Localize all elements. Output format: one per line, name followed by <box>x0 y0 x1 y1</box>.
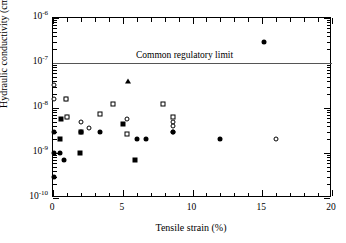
data-point-filled-circle <box>98 129 103 134</box>
data-point-filled-circle <box>51 151 56 156</box>
y-tick-left <box>53 67 57 68</box>
y-tick-right <box>327 36 331 37</box>
x-tick-bottom <box>304 193 305 197</box>
y-tick-left <box>53 115 57 116</box>
data-point-open-square <box>110 101 115 106</box>
x-tick-bottom <box>165 193 166 197</box>
data-point-filled-triangle <box>125 78 131 83</box>
x-tick-bottom <box>193 190 194 196</box>
x-tick-label: 20 <box>326 203 336 213</box>
x-tick-top <box>304 18 305 22</box>
data-point-open-circle <box>51 96 56 101</box>
y-tick-left <box>53 20 57 21</box>
x-tick-bottom <box>276 193 277 197</box>
y-axis-label: Hydraulic conductivity (cm/sec) <box>0 0 9 108</box>
y-tick-right <box>324 198 330 199</box>
data-point-open-square <box>170 115 175 120</box>
x-tick-top <box>206 18 207 22</box>
y-tick-left <box>53 18 59 19</box>
x-tick-top <box>137 18 138 22</box>
y-tick-right <box>327 112 331 113</box>
x-tick-top <box>81 18 82 22</box>
y-tick-right <box>327 160 331 161</box>
data-point-open-square <box>98 111 103 116</box>
y-tick-left <box>53 126 57 127</box>
data-point-open-circle <box>86 125 91 130</box>
y-tick-right <box>327 139 331 140</box>
x-tick-bottom <box>67 193 68 197</box>
data-point-open-square <box>124 132 129 137</box>
x-tick-bottom <box>123 190 124 196</box>
x-tick-label: 0 <box>50 203 55 213</box>
x-tick-bottom <box>81 193 82 197</box>
data-point-filled-circle <box>57 151 62 156</box>
x-tick-bottom <box>262 190 263 196</box>
y-tick-left <box>53 171 57 172</box>
x-tick-bottom <box>53 190 54 196</box>
data-point-filled-circle <box>51 174 56 179</box>
data-point-filled-circle <box>144 137 149 142</box>
y-tick-left <box>53 157 57 158</box>
y-tick-left <box>53 25 57 26</box>
y-tick-left <box>53 70 57 71</box>
x-tick-top <box>290 18 291 22</box>
y-tick-right <box>327 155 331 156</box>
y-tick-right <box>327 49 331 50</box>
x-tick-top <box>193 18 194 24</box>
data-point-open-square <box>64 115 69 120</box>
data-point-filled-square <box>120 121 125 126</box>
x-tick-top <box>332 18 333 24</box>
x-tick-top <box>179 18 180 22</box>
data-point-filled-circle <box>62 157 67 162</box>
y-tick-label: 10-8 <box>33 102 48 112</box>
x-tick-label: 15 <box>257 203 267 213</box>
x-tick-bottom <box>318 193 319 197</box>
y-tick-right <box>327 122 331 123</box>
x-tick-top <box>276 18 277 22</box>
y-tick-right <box>327 25 331 26</box>
y-tick-right <box>327 177 331 178</box>
x-tick-top <box>248 18 249 22</box>
y-tick-left <box>53 22 57 23</box>
x-tick-bottom <box>95 193 96 197</box>
data-point-open-circle <box>274 137 279 142</box>
y-tick-label: 10-10 <box>29 192 48 202</box>
y-tick-label: 10-7 <box>33 57 48 67</box>
data-point-open-circle <box>51 82 56 87</box>
y-tick-right <box>327 77 331 78</box>
data-point-filled-circle <box>170 129 175 134</box>
x-tick-top <box>165 18 166 22</box>
x-tick-top <box>67 18 68 22</box>
y-tick-right <box>327 118 331 119</box>
y-tick-label: 10-6 <box>33 12 48 22</box>
y-tick-right <box>324 108 330 109</box>
data-point-open-circle <box>78 119 83 124</box>
y-tick-right <box>327 110 331 111</box>
x-tick-bottom <box>109 193 110 197</box>
y-tick-left <box>53 163 57 164</box>
data-point-filled-circle <box>261 39 266 44</box>
x-tick-top <box>318 18 319 22</box>
data-point-open-square <box>161 101 166 106</box>
y-tick-left <box>53 65 57 66</box>
x-tick-label: 10 <box>187 203 197 213</box>
data-point-filled-square <box>57 137 62 142</box>
y-tick-left <box>53 28 57 29</box>
data-point-open-circle <box>170 123 175 128</box>
y-tick-right <box>327 70 331 71</box>
y-tick-right <box>327 22 331 23</box>
y-tick-left <box>53 94 57 95</box>
chart-figure: Hydraulic conductivity (cm/sec) Tensile … <box>0 0 346 243</box>
y-tick-left <box>53 118 57 119</box>
y-tick-right <box>327 65 331 66</box>
x-tick-top <box>234 18 235 22</box>
y-tick-right <box>327 42 331 43</box>
y-tick-left <box>53 77 57 78</box>
y-tick-right <box>327 184 331 185</box>
y-tick-right <box>327 87 331 88</box>
x-tick-bottom <box>137 193 138 197</box>
plot-area <box>52 17 331 197</box>
y-tick-left <box>53 167 57 168</box>
data-point-filled-square <box>77 151 82 156</box>
data-point-open-square <box>63 96 68 101</box>
